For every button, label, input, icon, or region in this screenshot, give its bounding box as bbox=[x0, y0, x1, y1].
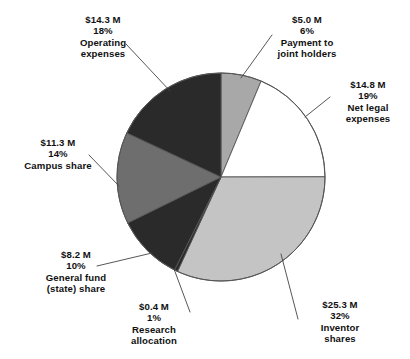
slice-label-general-fund-state-share: $8.2 M 10% General fund (state) share bbox=[30, 249, 122, 295]
slice-label-name-line2: shares bbox=[302, 333, 378, 344]
slice-label-name-line1: Inventor bbox=[302, 322, 378, 333]
slice-label-name-line2: joint holders bbox=[255, 48, 359, 59]
slice-label-name-line1: General fund bbox=[30, 272, 122, 283]
slice-label-inventor-shares: $25.3 M 32% Inventor shares bbox=[302, 299, 378, 345]
slice-label-operating-expenses: $14.3 M 18% Operating expenses bbox=[58, 14, 148, 60]
slice-label-percent: 19% bbox=[330, 90, 406, 101]
slice-label-name-line2: expenses bbox=[58, 48, 148, 59]
slice-label-amount: $25.3 M bbox=[302, 299, 378, 310]
slice-label-campus-share: $11.3 M 14% Campus share bbox=[10, 137, 106, 171]
slice-label-research-allocation: $0.4 M 1% Research allocation bbox=[114, 301, 194, 347]
pie-chart-figure: $14.3 M 18% Operating expenses $5.0 M 6%… bbox=[0, 0, 410, 359]
slice-label-percent: 14% bbox=[10, 148, 106, 159]
slice-label-name-line2: (state) share bbox=[30, 283, 122, 294]
slice-label-percent: 6% bbox=[255, 25, 359, 36]
slice-label-amount: $8.2 M bbox=[30, 249, 122, 260]
slice-label-name-line1: Research bbox=[114, 324, 194, 335]
slice-label-percent: 1% bbox=[114, 312, 194, 323]
slice-label-percent: 32% bbox=[302, 310, 378, 321]
slice-label-name-line1: Net legal bbox=[330, 102, 406, 113]
slice-label-amount: $14.8 M bbox=[330, 79, 406, 90]
slice-label-amount: $14.3 M bbox=[58, 14, 148, 25]
slice-label-percent: 10% bbox=[30, 260, 122, 271]
slice-label-name-line2: expenses bbox=[330, 113, 406, 124]
slice-label-name-line1: Operating bbox=[58, 37, 148, 48]
slice-label-amount: $0.4 M bbox=[114, 301, 194, 312]
slice-label-amount: $11.3 M bbox=[10, 137, 106, 148]
pie-slices bbox=[117, 73, 325, 281]
slice-label-name-line1: Payment to bbox=[255, 37, 359, 48]
slice-label-net-legal-expenses: $14.8 M 19% Net legal expenses bbox=[330, 79, 406, 125]
slice-label-payment-to-joint-holders: $5.0 M 6% Payment to joint holders bbox=[255, 14, 359, 60]
leader-line-inventor-shares bbox=[281, 254, 298, 319]
slice-label-percent: 18% bbox=[58, 25, 148, 36]
slice-label-name-line1: Campus share bbox=[10, 160, 106, 171]
leader-line-net-legal-expenses bbox=[305, 97, 330, 117]
slice-label-amount: $5.0 M bbox=[255, 14, 359, 25]
slice-label-name-line2: allocation bbox=[114, 335, 194, 346]
